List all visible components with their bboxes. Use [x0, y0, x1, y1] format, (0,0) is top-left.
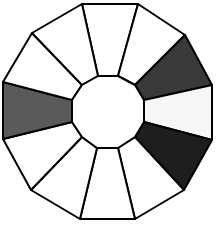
ring-diagram [0, 0, 216, 228]
center-dodecagon [72, 76, 144, 148]
dodecagon-ring-figure [0, 0, 216, 228]
